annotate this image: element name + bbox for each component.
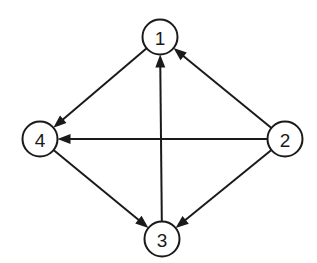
node-1: 1 [143, 20, 178, 55]
node-3: 3 [145, 222, 180, 257]
node-label: 3 [157, 230, 168, 251]
node-label: 2 [280, 130, 291, 151]
edge-line [54, 150, 140, 221]
node-label: 1 [155, 28, 166, 49]
edge-line [182, 55, 271, 128]
edge-2-to-4 [58, 134, 268, 144]
edge-1-to-4 [53, 48, 146, 127]
node-2: 2 [268, 122, 303, 157]
edge-line [62, 48, 147, 120]
directed-graph: 1234 [0, 0, 317, 263]
edges-layer [53, 48, 271, 228]
node-4: 4 [23, 122, 58, 157]
edge-4-to-3 [54, 150, 149, 228]
arrowhead-icon [155, 54, 165, 67]
edge-line [184, 150, 271, 221]
node-label: 4 [35, 130, 46, 151]
edge-2-to-1 [174, 48, 272, 128]
arrowhead-icon [58, 134, 71, 144]
edge-2-to-3 [176, 150, 272, 228]
edge-line [160, 65, 162, 221]
